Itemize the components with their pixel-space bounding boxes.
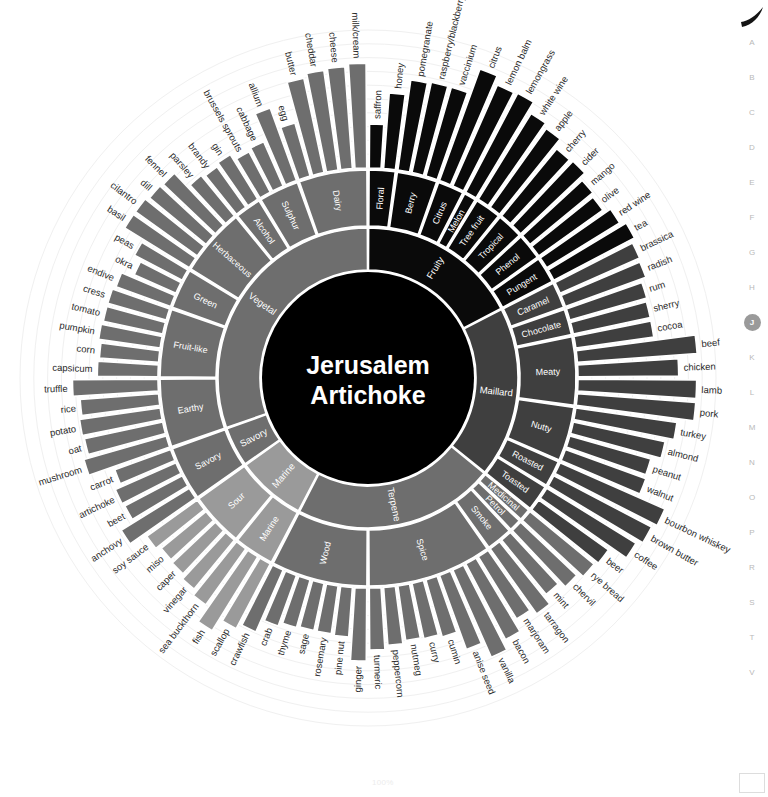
ingredient-label-truffle: truffle <box>44 383 68 395</box>
ingredient-label-nutmeg: nutmeg <box>408 643 424 676</box>
index-rail-search-box[interactable] <box>739 773 765 793</box>
ingredient-label-endive: endive <box>86 262 116 283</box>
ingredient-label-brussels-sprouts: brussels sprouts <box>202 88 246 154</box>
ingredient-label-peppercorn: peppercorn <box>390 649 406 698</box>
ingredient-label-tea: tea <box>632 216 650 232</box>
index-letter-s[interactable]: S <box>744 594 761 611</box>
ingredient-label-mango: mango <box>588 160 617 187</box>
index-letter-d[interactable]: D <box>744 139 761 156</box>
index-letter-v[interactable]: V <box>744 664 761 681</box>
alphabet-index-rail[interactable]: ABCDEFGHJKLMNOPRSTV <box>736 0 768 797</box>
ingredient-label-cocoa: cocoa <box>656 318 684 333</box>
ingredient-label-bacon: bacon <box>511 637 533 665</box>
ingredient-label-lamb: lamb <box>701 384 722 396</box>
index-letter-k[interactable]: K <box>744 349 761 366</box>
ingredient-label-miso: miso <box>144 553 166 574</box>
index-letter-h[interactable]: H <box>744 279 761 296</box>
ingredient-label-mint: mint <box>551 589 571 610</box>
sunburst-chart: FloralBerryCitrusMelonTree fruitTropical… <box>0 0 736 797</box>
index-letter-n[interactable]: N <box>744 454 761 471</box>
ingredient-label-rum: rum <box>648 279 667 294</box>
index-letter-f[interactable]: F <box>744 209 761 226</box>
ingredient-label-butter: butter <box>283 50 299 76</box>
ingredient-bar-saffron[interactable] <box>369 124 384 169</box>
ingredient-label-egg: egg <box>276 104 291 122</box>
ingredient-label-brassica: brassica <box>638 228 675 253</box>
family-label-floral: Floral <box>375 187 387 210</box>
ingredient-bar-turmeric[interactable] <box>369 588 385 651</box>
ingredient-label-cumin: cumin <box>446 638 464 665</box>
index-letter-m[interactable]: M <box>744 419 761 436</box>
ingredient-bar-ginger[interactable] <box>350 588 366 662</box>
sunburst-svg: FloralBerryCitrusMelonTree fruitTropical… <box>0 0 736 797</box>
ingredient-label-rosemary: rosemary <box>311 636 329 677</box>
index-letter-g[interactable]: G <box>744 244 761 261</box>
ingredient-label-cherry: cherry <box>562 127 588 154</box>
ingredient-label-turmeric: turmeric <box>372 655 384 690</box>
index-letter-p[interactable]: P <box>744 524 761 541</box>
ingredient-label-gin: gin <box>210 141 226 158</box>
index-letter-l[interactable]: L <box>744 384 761 401</box>
ingredient-label-cheese: cheese <box>327 32 341 64</box>
center-title-line2: Artichoke <box>310 381 425 409</box>
ingredient-label-tomato: tomato <box>71 300 102 318</box>
ingredient-label-curry: curry <box>427 641 443 664</box>
index-letter-t[interactable]: T <box>744 629 761 646</box>
ingredient-bar-capsicum[interactable] <box>97 361 158 377</box>
index-letter-j[interactable]: J <box>744 314 761 331</box>
ingredient-label-capsicum: capsicum <box>52 362 93 374</box>
ingredient-label-coffee: coffee <box>632 549 660 572</box>
ingredient-label-pomegranate: pomegranate <box>415 20 435 77</box>
ingredient-label-thyme: thyme <box>275 629 293 657</box>
ingredient-label-sage: sage <box>295 633 311 656</box>
ingredient-label-beef: beef <box>701 336 721 349</box>
ingredient-label-dill: dill <box>138 177 154 193</box>
ingredient-label-fish: fish <box>190 627 207 645</box>
ingredient-label-rice: rice <box>60 403 76 416</box>
ingredient-label-apple: apple <box>552 108 575 133</box>
ingredient-label-turkey: turkey <box>680 426 708 441</box>
family-label-meaty: Meaty <box>535 366 560 377</box>
scale-note: 100% <box>372 778 394 787</box>
ingredient-label-cider: cider <box>579 145 601 167</box>
ingredient-label-potato: potato <box>49 423 77 438</box>
ingredient-label-basil: basil <box>105 203 127 223</box>
ingredient-label-allium: allium <box>247 81 266 108</box>
ingredient-label-corn: corn <box>76 343 96 356</box>
ingredient-label-chicken: chicken <box>683 361 716 373</box>
ingredient-label-peas: peas <box>113 231 137 251</box>
ingredient-label-saffron: saffron <box>371 90 383 119</box>
index-letter-r[interactable]: R <box>744 559 761 576</box>
logo-icon[interactable] <box>739 6 765 28</box>
center-title-line1: Jerusalem <box>306 351 430 379</box>
ingredient-label-ginger: ginger <box>352 666 364 693</box>
index-letter-e[interactable]: E <box>744 174 761 191</box>
index-letter-c[interactable]: C <box>744 104 761 121</box>
ingredient-label-cilantro: cilantro <box>108 179 139 206</box>
index-letter-o[interactable]: O <box>744 489 761 506</box>
index-letter-a[interactable]: A <box>744 34 761 51</box>
ingredient-label-milk-cream: milk/cream <box>350 12 363 58</box>
ingredient-label-olive: olive <box>599 184 621 205</box>
ingredient-label-red-wine: red wine <box>616 189 652 218</box>
ingredient-label-cress: cress <box>82 282 107 299</box>
ingredient-label-pork: pork <box>699 407 719 420</box>
ingredient-label-honey: honey <box>392 62 406 89</box>
index-letter-b[interactable]: B <box>744 69 761 86</box>
ingredient-label-crab: crab <box>257 626 274 647</box>
ingredient-label-scallop: scallop <box>207 626 231 657</box>
ingredient-label-oat: oat <box>67 442 83 456</box>
ingredient-label-sherry: sherry <box>652 297 680 314</box>
ingredient-label-peanut: peanut <box>651 463 682 482</box>
